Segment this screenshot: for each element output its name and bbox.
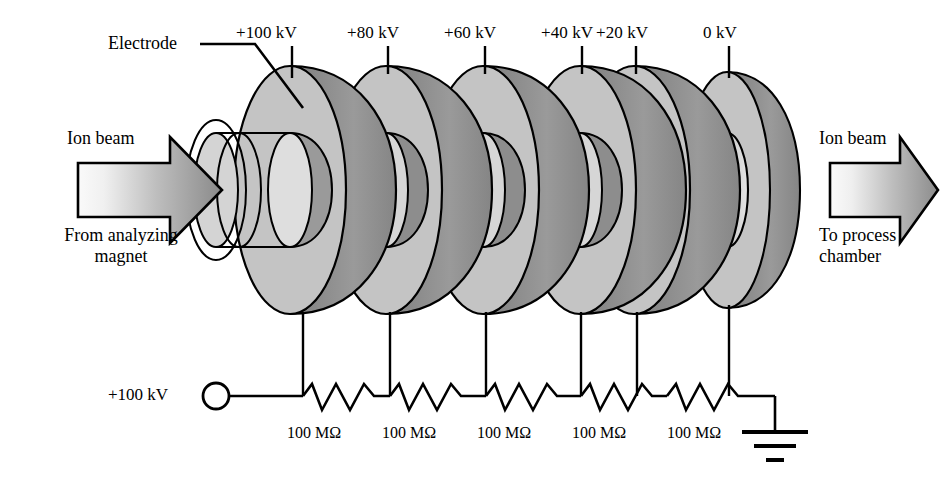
beam-source-line-1: From analyzing bbox=[36, 225, 206, 246]
voltage-label-e3: +60 kV bbox=[444, 23, 496, 43]
supply-terminal-circle bbox=[203, 383, 229, 409]
ion-beam-out-label: Ion beam bbox=[819, 128, 886, 149]
beam-source-label: From analyzing magnet bbox=[36, 225, 206, 267]
resistor-label-r4: 100 MΩ bbox=[572, 424, 626, 443]
supply-voltage-label: +100 kV bbox=[108, 385, 168, 405]
voltage-label-e1: +100 kV bbox=[236, 23, 297, 43]
beam-source-line-2: magnet bbox=[36, 246, 206, 267]
resistor-zigzag-5 bbox=[667, 384, 775, 410]
resistor-zigzag-4 bbox=[581, 384, 667, 410]
ion-beam-in-label: Ion beam bbox=[67, 128, 134, 149]
resistor-label-r2: 100 MΩ bbox=[382, 424, 436, 443]
resistor-zigzag-3 bbox=[486, 384, 581, 410]
beam-destination-label: To process chamber bbox=[819, 225, 896, 267]
electrode-callout-label: Electrode bbox=[108, 33, 177, 54]
resistor-label-r1: 100 MΩ bbox=[287, 424, 341, 443]
resistor-label-r3: 100 MΩ bbox=[477, 424, 531, 443]
beam-destination-line-1: To process bbox=[819, 225, 896, 246]
beam-destination-line-2: chamber bbox=[819, 246, 896, 267]
voltage-label-e5: +20 kV bbox=[596, 23, 648, 43]
voltage-label-e2: +80 kV bbox=[347, 23, 399, 43]
resistor-zigzag-2 bbox=[390, 384, 486, 410]
voltage-label-e6: 0 kV bbox=[703, 23, 737, 43]
voltage-label-e4: +40 kV bbox=[541, 23, 593, 43]
resistor-zigzag-1 bbox=[303, 384, 390, 410]
electrode-drop-lines bbox=[303, 305, 729, 396]
ion-accelerator-diagram: Electrode +100 kV +80 kV +60 kV +40 kV +… bbox=[0, 0, 943, 486]
resistor-label-r5: 100 MΩ bbox=[667, 424, 721, 443]
earth-ground-symbol bbox=[742, 432, 808, 460]
